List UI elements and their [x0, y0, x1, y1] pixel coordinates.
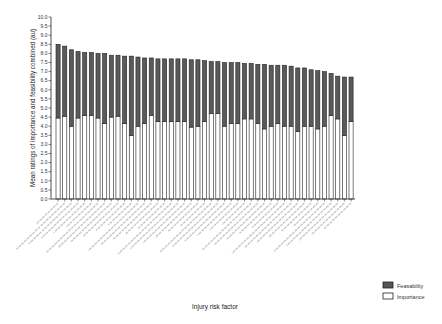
category-label: [160, 203, 211, 252]
bar-feasability: [216, 62, 220, 114]
category-label: [108, 203, 131, 225]
bar-importance: [123, 123, 127, 199]
category-label: [29, 203, 71, 244]
bar-feasability: [109, 55, 113, 117]
category-label: [239, 203, 271, 233]
bar-group: [56, 44, 60, 199]
bar-group: [309, 70, 313, 199]
bar-feasability: [242, 63, 246, 119]
bar-importance: [282, 126, 286, 199]
category-label: [143, 203, 185, 243]
category-label: [222, 203, 244, 224]
bar-importance: [309, 126, 313, 199]
y-tick-label: 5.5: [41, 96, 48, 102]
bar-feasability: [282, 65, 286, 126]
bar-group: [96, 53, 100, 199]
y-tick-label: 1.5: [41, 168, 48, 174]
bar-importance: [116, 116, 120, 199]
bar-feasability: [69, 50, 73, 126]
y-tick-label: 9.0: [41, 32, 48, 38]
category-label: [197, 203, 231, 235]
bar-feasability: [329, 73, 333, 115]
bar-importance: [183, 122, 187, 199]
x-axis-title: Injury risk factor: [192, 303, 239, 311]
y-tick-label: 3.5: [41, 132, 48, 138]
category-label: [215, 203, 258, 244]
y-tick-label: 6.0: [41, 87, 48, 93]
category-label: [88, 203, 138, 251]
bar-feasability: [203, 61, 207, 122]
bar-group: [336, 76, 340, 199]
category-label: [59, 203, 105, 247]
bar-feasability: [63, 46, 67, 116]
category-label: [138, 203, 165, 229]
category-label: [202, 203, 251, 250]
bar-feasability: [143, 58, 147, 124]
bar-importance: [229, 123, 233, 199]
bar-importance: [163, 122, 167, 199]
category-label: [16, 203, 64, 249]
bar-feasability: [322, 72, 326, 127]
bar-feasability: [136, 57, 140, 126]
bar-feasability: [163, 59, 167, 122]
bar-feasability: [269, 65, 273, 126]
bar-group: [76, 52, 80, 199]
bar-group: [209, 62, 213, 199]
bar-importance: [89, 115, 93, 199]
bar-group: [156, 59, 160, 199]
bar-group: [276, 65, 280, 199]
bar-feasability: [209, 62, 213, 114]
bar-importance: [269, 126, 273, 199]
bar-feasability: [302, 68, 306, 126]
bar-feasability: [189, 60, 193, 127]
bar-group: [196, 60, 200, 199]
category-label: [168, 203, 198, 232]
bar-importance: [216, 113, 220, 199]
bar-feasability: [316, 71, 320, 129]
y-axis-title: Mean ratings of importance and feasibili…: [29, 29, 37, 187]
bar-group: [123, 56, 127, 199]
bar-importance: [276, 123, 280, 199]
bar-importance: [56, 118, 60, 199]
category-label: [46, 203, 98, 253]
bar-feasability: [296, 68, 300, 132]
bar-group: [143, 58, 147, 199]
category-label: [257, 203, 298, 242]
legend-label-feasability: Feasability: [397, 283, 424, 289]
bar-group: [242, 63, 246, 199]
y-axis: 0.00.51.01.52.02.53.03.54.04.55.05.56.06…: [38, 14, 51, 202]
bar-importance: [242, 119, 246, 199]
bar-feasability: [176, 59, 180, 122]
bar-group: [149, 58, 153, 199]
bar-group: [169, 59, 173, 199]
stacked-bar-chart: 0.00.51.01.52.02.53.03.54.04.55.05.56.06…: [0, 0, 442, 324]
category-label: [101, 203, 145, 245]
bar-feasability: [229, 63, 233, 124]
bar-group: [163, 59, 167, 199]
bar-feasability: [169, 59, 173, 122]
bar-feasability: [123, 56, 127, 123]
bar-group: [236, 63, 240, 200]
bar-group: [116, 55, 120, 199]
bar-importance: [322, 126, 326, 199]
y-tick-label: 0.5: [41, 187, 48, 193]
bar-feasability: [342, 77, 346, 135]
bar-importance: [209, 113, 213, 199]
bar-group: [269, 65, 273, 199]
bar-feasability: [56, 44, 60, 118]
y-tick-label: 8.5: [41, 41, 48, 47]
legend-swatch-feasability: [383, 282, 393, 288]
bars: [56, 44, 353, 199]
x-axis: [16, 199, 355, 254]
bar-group: [83, 52, 87, 199]
bar-importance: [256, 123, 260, 199]
bar-feasability: [76, 52, 80, 118]
y-tick-label: 4.5: [41, 114, 48, 120]
y-tick-label: 2.0: [41, 159, 48, 165]
bar-importance: [289, 126, 293, 199]
y-tick-label: 1.0: [41, 178, 48, 184]
bar-importance: [222, 126, 226, 199]
bar-feasability: [262, 64, 266, 129]
bar-group: [256, 64, 260, 199]
bar-group: [289, 66, 293, 199]
